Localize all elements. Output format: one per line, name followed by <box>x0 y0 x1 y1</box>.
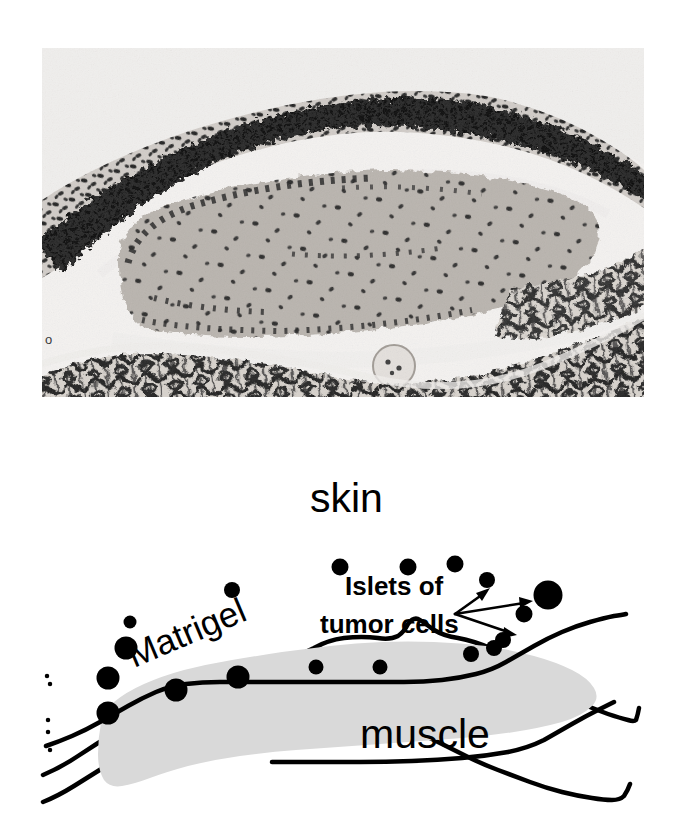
tumor-cell-islet <box>115 637 138 660</box>
tumor-cell-islet <box>534 581 563 610</box>
schematic-diagram: Matrigel skin muscle Islets of tumor cel… <box>0 430 681 815</box>
islets-label-line2: tumor cells <box>320 609 459 639</box>
islets-label-line1: Islets of <box>345 571 444 601</box>
pointer-arrow-3 <box>455 614 508 632</box>
micrograph-panel: o <box>42 48 644 397</box>
tumor-cell-islet <box>309 660 324 675</box>
tumor-cell-islet <box>224 582 240 598</box>
tumor-cell-islet <box>516 606 533 623</box>
tumor-cell-islet <box>479 572 495 588</box>
micrograph-image <box>42 48 644 397</box>
pointer-arrow-2 <box>455 603 524 614</box>
tumor-cell-islet <box>400 559 417 576</box>
muscle-label: muscle <box>360 711 490 757</box>
tumor-cell-islet <box>124 616 137 629</box>
tumor-cell-islet <box>373 660 388 675</box>
skin-label: skin <box>310 475 383 521</box>
tumor-cell-islet <box>97 702 120 725</box>
matrigel-region <box>98 642 597 787</box>
tumor-cell-islet <box>463 646 479 662</box>
tumor-cell-islet <box>447 556 464 573</box>
tumor-cell-islet <box>332 559 349 576</box>
scale-marker-label: o <box>45 333 52 346</box>
figure-container: o Matrigel <box>0 0 681 815</box>
tumor-cell-islet <box>97 667 120 690</box>
tumor-cell-islet <box>486 640 502 656</box>
tumor-cell-islet <box>165 679 188 702</box>
tumor-cell-islet <box>227 666 250 689</box>
schematic-panel: Matrigel skin muscle Islets of tumor cel… <box>0 430 681 815</box>
